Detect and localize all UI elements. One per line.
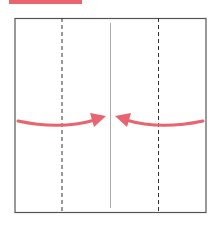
fold-diagram bbox=[0, 0, 221, 228]
